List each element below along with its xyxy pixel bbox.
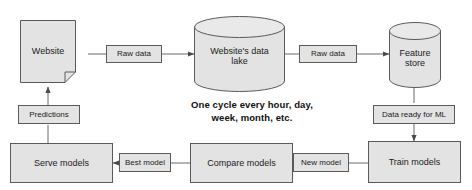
node-serve-models-label: Serve models [34, 158, 89, 168]
node-feature-store-label: Feature store [389, 48, 441, 69]
node-serve-models[interactable]: Serve models [10, 143, 113, 183]
edge-label-raw-data-2[interactable]: Raw data [299, 45, 357, 63]
node-train-models-label: Train models [389, 157, 441, 167]
edge-label-best-model[interactable]: Best model [119, 153, 171, 172]
cycle-caption: One cycle every hour, day, week, month, … [167, 99, 337, 125]
edge-label-predictions-text: Predictions [29, 110, 69, 119]
edge-label-new-model-text: New model [301, 158, 341, 167]
edge-label-raw-data-2-text: Raw data [311, 49, 345, 58]
edge-label-best-model-text: Best model [125, 158, 165, 167]
node-feature-store[interactable]: Feature store [389, 22, 441, 88]
node-compare-models[interactable]: Compare models [190, 143, 293, 183]
edge-label-predictions[interactable]: Predictions [18, 105, 80, 124]
edge-label-data-ready-for-ml-text: Data ready for ML [382, 110, 446, 119]
diagram-canvas: Website Raw data Website's data lake Raw… [0, 0, 472, 190]
edge-label-data-ready-for-ml[interactable]: Data ready for ML [373, 105, 455, 124]
node-compare-models-label: Compare models [207, 158, 276, 168]
edge-label-raw-data-1-text: Raw data [117, 49, 151, 58]
node-website[interactable]: Website [20, 20, 76, 83]
node-website-data-lake[interactable]: Website's data lake [194, 16, 285, 92]
node-website-data-lake-label: Website's data lake [194, 46, 285, 67]
edge-label-raw-data-1[interactable]: Raw data [106, 45, 162, 63]
node-website-label: Website [20, 46, 76, 56]
node-train-models[interactable]: Train models [368, 141, 461, 183]
edge-label-new-model[interactable]: New model [293, 153, 349, 172]
